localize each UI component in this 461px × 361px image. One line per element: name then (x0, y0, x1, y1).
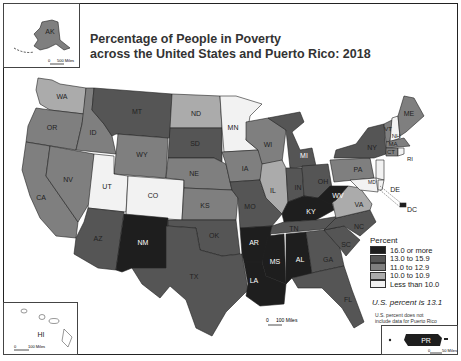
label-NC: NC (354, 223, 364, 230)
label-VT: VT (384, 126, 392, 132)
legend-item: Less than 10.0 (370, 280, 439, 289)
hawaii-label: HI (38, 331, 45, 338)
svg-text:50 Miles: 50 Miles (442, 348, 457, 353)
label-VA: VA (355, 201, 364, 208)
label-NY: NY (367, 144, 377, 151)
puerto-rico-inset: PR 0 50 Miles (381, 325, 458, 355)
label-NH: NH (392, 133, 401, 139)
legend: Percent 16.0 or more 13.0 to 15.9 11.0 t… (370, 236, 439, 289)
state-DC (400, 203, 406, 207)
us-percent-note: U.S. percent is 13.1 (372, 298, 442, 307)
label-IL: IL (270, 187, 276, 194)
label-AL: AL (296, 256, 305, 263)
label-OR: OR (47, 124, 58, 131)
label-MN: MN (228, 124, 239, 131)
state-NJ (376, 160, 384, 180)
label-NV: NV (63, 176, 73, 183)
label-TX: TX (190, 273, 199, 280)
label-DE: DE (390, 186, 400, 193)
label-MT: MT (132, 108, 143, 115)
legend-item: 11.0 to 12.9 (370, 263, 439, 272)
alaska-inset: AK 0 500 Miles (3, 3, 80, 68)
label-ND: ND (191, 110, 201, 117)
label-ID: ID (90, 129, 97, 136)
puerto-rico-label: PR (421, 337, 431, 344)
hawaii-inset: HI 0 100 Miles (3, 302, 78, 355)
label-RI: RI (407, 156, 413, 162)
label-IA: IA (242, 165, 249, 172)
state-shapes (22, 78, 424, 336)
label-OH: OH (318, 178, 329, 185)
state-RI (398, 148, 404, 156)
svg-text:0: 0 (266, 317, 269, 323)
legend-title: Percent (370, 236, 439, 245)
alaska-label: AK (45, 28, 55, 35)
label-FL: FL (344, 296, 352, 303)
label-WY: WY (136, 151, 148, 158)
legend-item: 13.0 to 15.9 (370, 255, 439, 264)
label-AR: AR (249, 239, 259, 246)
label-KS: KS (200, 202, 210, 209)
label-MS: MS (270, 258, 281, 265)
label-AZ: AZ (94, 235, 104, 242)
legend-item: 10.0 to 10.9 (370, 272, 439, 281)
label-WV: WV (332, 192, 344, 199)
state-FL (292, 266, 364, 328)
label-NM: NM (138, 239, 149, 246)
svg-text:0: 0 (14, 344, 17, 349)
main-scale-bar: 0 100 Miles (266, 317, 298, 325)
puerto-rico-note: U.S. percent does not include data for P… (375, 312, 437, 324)
state-NY (334, 124, 386, 158)
label-PA: PA (354, 166, 363, 173)
state-KS (182, 188, 238, 220)
svg-text:100 Miles: 100 Miles (276, 317, 298, 323)
legend-item: 16.0 or more (370, 246, 439, 255)
label-LA: LA (250, 277, 259, 284)
label-SD: SD (190, 140, 200, 147)
label-WA: WA (56, 93, 67, 100)
label-CA: CA (36, 194, 46, 201)
label-MO: MO (244, 203, 256, 210)
label-MD: MD (368, 179, 376, 185)
svg-text:0: 0 (48, 58, 51, 63)
label-TN: TN (289, 225, 298, 232)
label-OK: OK (209, 232, 219, 239)
svg-text:100 Miles: 100 Miles (28, 344, 45, 349)
svg-text:500 Miles: 500 Miles (57, 58, 74, 63)
label-MA: MA (389, 141, 398, 147)
label-SC: SC (341, 241, 351, 248)
label-NE: NE (189, 170, 199, 177)
label-CO: CO (148, 192, 159, 199)
label-UT: UT (102, 183, 112, 190)
label-ME: ME (404, 110, 415, 117)
label-GA: GA (323, 256, 333, 263)
label-IN: IN (295, 184, 302, 191)
label-KY: KY (306, 208, 316, 215)
label-DC: DC (407, 206, 417, 213)
label-CT: CT (387, 149, 395, 155)
label-WI: WI (264, 141, 273, 148)
svg-text:0: 0 (428, 348, 431, 353)
label-MI: MI (300, 152, 308, 159)
